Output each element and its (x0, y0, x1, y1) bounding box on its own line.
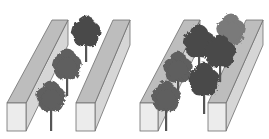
tree-icon (71, 16, 100, 62)
sparse-canopy-panel (7, 16, 130, 131)
diagram-canvas (0, 0, 269, 139)
dense-canopy-panel (140, 14, 263, 131)
street-canyon-diagram (0, 0, 269, 139)
wall-front-face (208, 103, 226, 131)
wall-front-face (76, 103, 95, 131)
wall-front-face (7, 103, 26, 131)
tree-crown (71, 16, 100, 47)
